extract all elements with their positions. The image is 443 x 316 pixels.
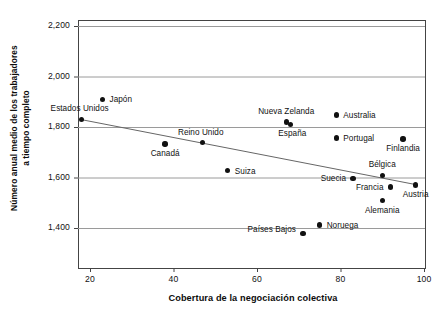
y-axis-tick-label: 1,400 <box>30 222 70 232</box>
data-point-label: España <box>278 129 306 138</box>
data-point-label: Estados Unidos <box>51 104 109 113</box>
data-point-label: Nueva Zelanda <box>258 107 314 116</box>
data-point-marker[interactable] <box>350 176 355 181</box>
data-point-label: Canadá <box>151 149 180 158</box>
data-point-marker[interactable] <box>162 141 167 146</box>
y-axis-tick-label: 1,600 <box>30 172 70 182</box>
y-axis-tick-label: 2,000 <box>30 71 70 81</box>
data-point-label: Suecia <box>321 174 346 183</box>
data-point-marker[interactable] <box>400 136 405 141</box>
y-axis-tick-label: 2,200 <box>30 20 70 30</box>
x-axis-tick-label: 100 <box>404 274 443 284</box>
data-point-marker[interactable] <box>334 112 339 117</box>
data-point-label: Países Bajos <box>248 224 296 233</box>
data-point-label: Finlandia <box>386 144 420 153</box>
data-point-label: Bélgica <box>369 160 396 169</box>
x-axis-tick-label: 60 <box>237 274 277 284</box>
data-point-marker[interactable] <box>334 135 339 140</box>
x-axis-tick-label: 40 <box>154 274 194 284</box>
data-point-marker[interactable] <box>100 97 105 102</box>
data-point-label: Portugal <box>343 133 374 142</box>
data-point-label: Noruega <box>327 220 359 229</box>
x-axis-tick-label: 20 <box>70 274 110 284</box>
data-point-label: Japón <box>110 95 133 104</box>
x-axis-tick-label: 80 <box>321 274 361 284</box>
data-point-label: Australia <box>343 110 375 119</box>
data-point-label: Reino Unido <box>178 128 224 137</box>
data-point-label: Suiza <box>235 166 256 175</box>
data-point-label: Alemania <box>365 206 400 215</box>
data-point-marker[interactable] <box>388 184 393 189</box>
plot-area <box>0 0 443 316</box>
data-point-marker[interactable] <box>380 173 385 178</box>
y-axis-tick-label: 1,800 <box>30 121 70 131</box>
data-point-marker[interactable] <box>413 182 418 187</box>
data-point-marker[interactable] <box>317 222 322 227</box>
scatter-chart-figure: Número anual medio de los trabajadores a… <box>0 0 443 316</box>
data-point-label: Francia <box>356 183 384 192</box>
data-point-label: Austria <box>403 190 429 199</box>
data-point-marker[interactable] <box>300 231 305 236</box>
